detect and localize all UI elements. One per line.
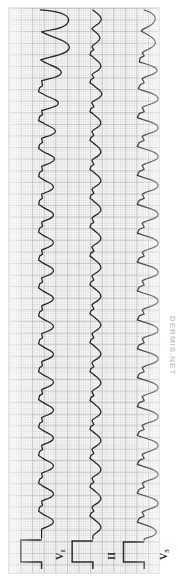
calibration-pulse-v5	[123, 542, 144, 569]
calibration-pulse-ii	[72, 541, 93, 569]
ecg-paper	[8, 7, 160, 574]
ecg-traces	[9, 8, 159, 573]
lead-label-ii: II	[106, 552, 117, 560]
ecg-screenshot: V1 II V5 DERMIS.NET	[0, 0, 178, 587]
trace-v5	[137, 10, 158, 540]
lead-label-v1: V1	[54, 549, 65, 560]
trace-ii	[90, 10, 102, 539]
ecg-trace-svg	[9, 8, 159, 573]
watermark-text: DERMIS.NET	[168, 316, 177, 330]
trace-v1	[39, 10, 70, 538]
lead-label-v5: V5	[158, 549, 169, 560]
calibration-pulse-v1	[21, 540, 42, 569]
